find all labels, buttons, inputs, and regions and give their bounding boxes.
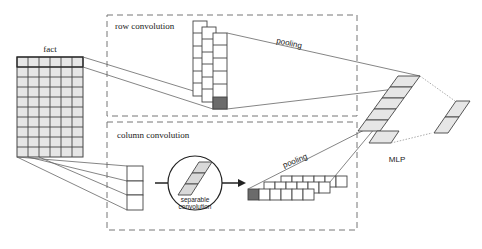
architecture-diagram: fact: [0, 0, 482, 249]
column-input-cells: [127, 166, 143, 210]
row-convolution-label: row convolution: [115, 21, 175, 31]
column-stack-1: [248, 189, 314, 200]
fact-label: fact: [43, 44, 57, 54]
fact-matrix: [17, 57, 83, 157]
pooling-label-bottom: pooling: [281, 152, 308, 170]
mlp-vector: [358, 76, 420, 143]
output-vector: [434, 101, 470, 133]
column-connection-lines: [17, 157, 127, 210]
arrow-out: [222, 179, 246, 187]
pooling-label-top: pooling: [276, 36, 303, 50]
separable-label-line2: convolution: [179, 203, 212, 210]
mlp-label: MLP: [389, 155, 405, 164]
separable-convolution-node: separable convolution: [168, 156, 222, 210]
row-conv-stacks: [193, 21, 227, 109]
row-stack-3: [213, 33, 227, 109]
column-convolution-label: column convolution: [117, 130, 190, 140]
